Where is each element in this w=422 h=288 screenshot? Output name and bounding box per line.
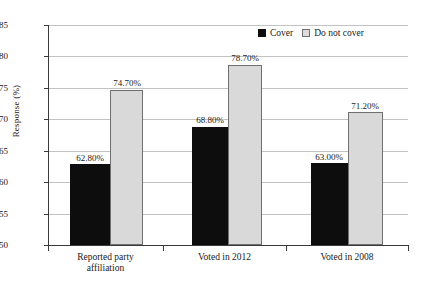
y-tick-label-80: 80 xyxy=(0,52,8,61)
x-category-label-voted-in-2008: Voted in 2008 xyxy=(286,252,408,263)
legend-label-cover: Cover xyxy=(270,28,293,38)
y-axis-line xyxy=(48,25,49,246)
y-tick-label-50: 50 xyxy=(0,241,8,250)
y-tick-mark-85 xyxy=(44,25,48,26)
y-tick-label-55: 55 xyxy=(0,210,8,219)
bar-chart: Response (%) 85 80 75 70 65 60 55 50 xyxy=(0,0,422,288)
x-category-line-2: affiliation xyxy=(48,263,163,274)
y-tick-mark-55 xyxy=(44,214,48,215)
bar-cover-voted-in-2012[interactable] xyxy=(192,127,228,245)
bar-cover-voted-in-2008[interactable] xyxy=(311,163,348,245)
bar-do-not-cover-reported-party-affiliation[interactable] xyxy=(110,90,143,245)
x-tick-mark-1 xyxy=(163,246,164,251)
y-tick-label-85: 85 xyxy=(0,21,8,30)
bar-do-not-cover-voted-in-2008[interactable] xyxy=(348,112,383,245)
y-tick-mark-65 xyxy=(44,151,48,152)
y-tick-label-70: 70 xyxy=(0,115,8,124)
y-tick-label-60: 60 xyxy=(0,178,8,187)
bar-cover-reported-party-affiliation[interactable] xyxy=(70,164,110,245)
x-tick-mark-start xyxy=(48,246,49,251)
gridline-85 xyxy=(49,25,408,26)
y-tick-label-75: 75 xyxy=(0,84,8,93)
x-axis-line xyxy=(48,245,409,246)
y-tick-label-65: 65 xyxy=(0,147,8,156)
legend-item-do-not-cover[interactable]: Do not cover xyxy=(302,28,364,38)
legend-swatch-do-not-cover-icon xyxy=(302,29,310,37)
x-tick-mark-end xyxy=(408,246,409,251)
legend-label-do-not-cover: Do not cover xyxy=(314,28,364,38)
y-axis-title: Response (%) xyxy=(11,51,21,171)
bar-label-do-not-cover-voted-in-2008: 71.20% xyxy=(335,101,395,111)
y-tick-mark-60 xyxy=(44,182,48,183)
x-category-line-1: Reported party xyxy=(48,252,163,263)
x-category-label-voted-in-2012: Voted in 2012 xyxy=(163,252,286,263)
y-tick-mark-70 xyxy=(44,119,48,120)
x-category-label-reported-party-affiliation: Reported party affiliation xyxy=(48,252,163,274)
legend: Cover Do not cover xyxy=(258,28,364,38)
bar-label-do-not-cover-reported-party-affiliation: 74.70% xyxy=(97,78,157,88)
y-tick-mark-75 xyxy=(44,88,48,89)
y-tick-mark-80 xyxy=(44,56,48,57)
bar-label-do-not-cover-voted-in-2012: 78.70% xyxy=(215,53,275,63)
legend-item-cover[interactable]: Cover xyxy=(258,28,293,38)
x-tick-mark-2 xyxy=(286,246,287,251)
legend-swatch-cover-icon xyxy=(258,29,266,37)
bar-do-not-cover-voted-in-2012[interactable] xyxy=(228,65,262,245)
plot-area: 62.80% 74.70% 68.80% 78.70% 63.00% 71.20… xyxy=(48,25,408,245)
